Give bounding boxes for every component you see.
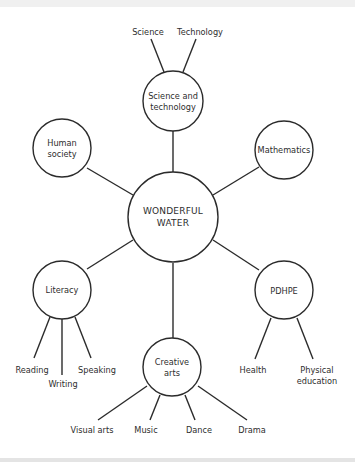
leaf-label-health: Health bbox=[240, 365, 267, 376]
edge-center-mathematics bbox=[213, 167, 259, 195]
edge-health bbox=[255, 318, 271, 359]
mathematics-node-label: Mathematics bbox=[258, 145, 311, 156]
edge-visual-arts bbox=[98, 386, 147, 420]
mind-map-diagram bbox=[0, 0, 355, 462]
leaf-label-speaking: Speaking bbox=[78, 365, 116, 376]
leaf-label-music: Music bbox=[134, 425, 157, 436]
edge-center-pdhpe bbox=[213, 240, 259, 270]
science-technology-node-label: Science and technology bbox=[148, 91, 198, 112]
edge-technology bbox=[183, 39, 196, 72]
edge-science bbox=[151, 39, 164, 72]
edge-dance bbox=[185, 395, 195, 420]
edge-music bbox=[150, 395, 160, 420]
human-society-node-label: Human society bbox=[47, 138, 77, 159]
leaf-label-science: Science bbox=[132, 27, 164, 38]
leaf-label-visual-arts: Visual arts bbox=[71, 425, 114, 436]
bottom-border-strip bbox=[0, 458, 355, 462]
leaf-label-technology: Technology bbox=[177, 27, 223, 38]
leaf-label-writing: Writing bbox=[48, 379, 77, 390]
literacy-node-label: Literacy bbox=[46, 285, 79, 296]
edge-speaking bbox=[75, 317, 91, 358]
leaf-label-reading: Reading bbox=[15, 365, 48, 376]
edge-center-literacy bbox=[87, 240, 133, 269]
creative-arts-node-label: Creative arts bbox=[155, 357, 189, 378]
edge-physical-education bbox=[297, 318, 313, 359]
pdhpe-node-label: PDHPE bbox=[270, 286, 298, 297]
center-node-label: WONDERFUL WATER bbox=[143, 205, 203, 229]
edge-reading bbox=[34, 317, 50, 358]
leaf-label-dance: Dance bbox=[186, 425, 212, 436]
edge-drama bbox=[198, 386, 247, 420]
leaf-label-drama: Drama bbox=[238, 425, 266, 436]
edge-center-human-society bbox=[87, 168, 133, 195]
leaf-label-physical-education: Physical education bbox=[297, 365, 338, 386]
